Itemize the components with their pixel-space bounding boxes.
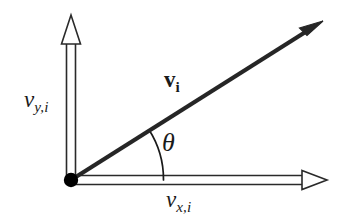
x-axis xyxy=(72,171,328,190)
vector-label-base: v xyxy=(164,67,176,92)
y-axis-arrowhead-icon xyxy=(62,15,81,44)
x-component-label-base: v xyxy=(166,187,176,212)
origin-dot xyxy=(64,173,78,187)
x-component-label-subscript: x,i xyxy=(176,198,191,215)
y-axis xyxy=(62,15,81,181)
x-axis-arrowhead-icon xyxy=(302,171,327,190)
vector-label-subscript: i xyxy=(176,78,180,95)
x-component-label: vx,i xyxy=(166,188,191,214)
y-component-label-base: v xyxy=(24,87,34,112)
y-axis-shaft xyxy=(67,43,76,181)
vector-diagram-figure: vy,i vx,i vi θ xyxy=(0,0,342,223)
y-component-label-subscript: y,i xyxy=(34,98,48,115)
y-component-label: vy,i xyxy=(24,88,49,114)
angle-label: θ xyxy=(162,130,175,156)
x-axis-shaft xyxy=(72,176,304,185)
resultant-vector xyxy=(71,21,323,180)
vector-shaft xyxy=(71,29,311,181)
vector-label: vi xyxy=(164,68,180,94)
